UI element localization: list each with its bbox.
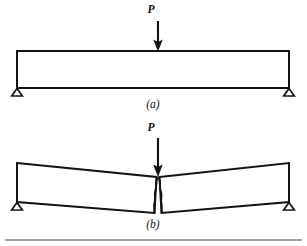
right-roller-support-b bbox=[284, 203, 295, 211]
beam-failure-figure: P (a) P (b) bbox=[0, 0, 307, 246]
panel-a bbox=[12, 21, 295, 96]
beam-right-segment-b bbox=[160, 163, 290, 213]
panel-b bbox=[12, 138, 295, 213]
load-label-a: P bbox=[147, 3, 155, 15]
caption-b: (b) bbox=[146, 218, 160, 231]
left-roller-support-b bbox=[12, 203, 23, 211]
left-roller-support-a bbox=[12, 89, 23, 97]
figure-canvas: P (a) P (b) bbox=[0, 0, 307, 246]
caption-a: (a) bbox=[146, 98, 160, 111]
load-arrow-a bbox=[153, 21, 163, 52]
load-arrow-b bbox=[153, 138, 163, 177]
beam-outline-a bbox=[17, 51, 289, 88]
beam-left-segment-b bbox=[17, 163, 157, 213]
load-label-b: P bbox=[147, 121, 155, 133]
right-roller-support-a bbox=[284, 89, 295, 97]
